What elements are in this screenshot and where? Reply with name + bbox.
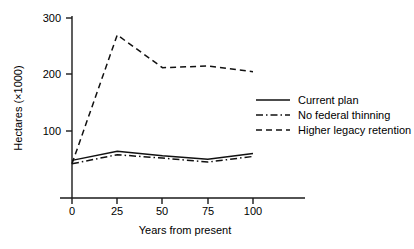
legend-label-current-plan: Current plan <box>298 94 359 106</box>
y-tick-label-300: 300 <box>43 12 61 24</box>
y-tick-label-100: 100 <box>43 125 61 137</box>
legend-label-no-federal-thinning: No federal thinning <box>298 109 390 121</box>
y-tick-label-200: 200 <box>43 68 61 80</box>
chart-legend: Current plan No federal thinning Higher … <box>256 94 411 136</box>
x-tick-label-50: 50 <box>156 205 168 217</box>
x-tick-label-100: 100 <box>244 205 262 217</box>
line-chart: 300 200 100 Hectares (×1000) 0 25 50 75 … <box>0 0 414 249</box>
series-line-higher-legacy-retention <box>72 35 253 164</box>
x-tick-label-75: 75 <box>202 205 214 217</box>
legend-label-higher-legacy-retention: Higher legacy retention <box>298 124 411 136</box>
x-tick-label-0: 0 <box>69 205 75 217</box>
x-axis-title: Years from present <box>139 224 232 236</box>
x-tick-label-25: 25 <box>111 205 123 217</box>
chart-figure: 300 200 100 Hectares (×1000) 0 25 50 75 … <box>0 0 414 249</box>
series-line-current-plan <box>72 151 253 160</box>
y-axis-title: Hectares (×1000) <box>12 65 24 150</box>
